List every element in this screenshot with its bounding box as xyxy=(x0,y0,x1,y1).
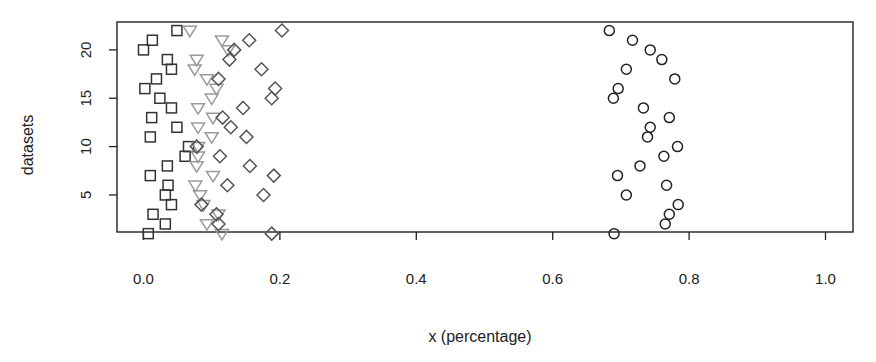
circle-marker xyxy=(608,93,618,103)
y-axis: 5101520 xyxy=(77,42,117,200)
y-tick-label: 20 xyxy=(77,42,94,59)
square-marker xyxy=(148,209,158,219)
diamond-marker xyxy=(255,63,268,76)
circle-marker xyxy=(670,74,680,84)
square-marker xyxy=(140,84,150,94)
circle-marker xyxy=(642,132,652,142)
circle-marker xyxy=(621,64,631,74)
square-marker xyxy=(145,132,155,142)
x-tick-label: 1.0 xyxy=(815,270,836,287)
circle-marker xyxy=(664,113,674,123)
circle-marker xyxy=(645,122,655,132)
circle-marker xyxy=(673,200,683,210)
square-marker xyxy=(145,171,155,181)
y-tick-label: 10 xyxy=(77,138,94,155)
circle-marker xyxy=(621,190,631,200)
square-marker xyxy=(166,200,176,210)
triangle-marker xyxy=(188,65,201,75)
circle-marker xyxy=(604,26,614,36)
x-tick-label: 0.4 xyxy=(406,270,427,287)
diamond-marker xyxy=(257,188,270,201)
circle-marker xyxy=(645,45,655,55)
square-marker xyxy=(166,64,176,74)
square-marker xyxy=(180,151,190,161)
square-marker xyxy=(139,45,149,55)
diamond-marker xyxy=(240,130,253,143)
square-marker xyxy=(172,26,182,36)
circle-marker xyxy=(662,180,672,190)
triangle-marker xyxy=(200,220,213,230)
triangle-marker xyxy=(192,104,205,114)
y-axis-title: datasets xyxy=(19,115,36,175)
x-tick-label: 0.0 xyxy=(133,270,154,287)
square-marker xyxy=(172,122,182,132)
triangle-marker xyxy=(183,26,196,36)
triangle-marker xyxy=(200,75,213,85)
square-marker xyxy=(166,103,176,113)
circle-marker xyxy=(627,35,637,45)
diamond-marker xyxy=(243,159,256,172)
diamond-marker xyxy=(275,24,288,37)
triangle-marker xyxy=(207,171,220,181)
diamond-marker xyxy=(243,34,256,47)
y-tick-label: 5 xyxy=(77,191,94,199)
square-marker xyxy=(160,190,170,200)
triangle-marker xyxy=(205,133,218,143)
circle-marker xyxy=(635,161,645,171)
triangle-marker xyxy=(190,55,203,65)
circle-marker xyxy=(664,209,674,219)
circle-marker xyxy=(660,219,670,229)
data-points xyxy=(139,24,684,240)
series-square xyxy=(139,26,194,239)
square-marker xyxy=(155,93,165,103)
circle-marker xyxy=(659,151,669,161)
triangle-marker xyxy=(215,229,228,239)
triangle-marker xyxy=(190,162,203,172)
diamond-marker xyxy=(267,169,280,182)
plot-frame xyxy=(117,22,853,232)
circle-marker xyxy=(638,103,648,113)
square-marker xyxy=(143,229,153,239)
square-marker xyxy=(160,219,170,229)
y-tick-label: 15 xyxy=(77,90,94,107)
x-tick-label: 0.6 xyxy=(542,270,563,287)
diamond-marker xyxy=(213,150,226,163)
square-marker xyxy=(151,74,161,84)
triangle-marker xyxy=(189,181,202,191)
triangle-marker xyxy=(215,36,228,46)
square-marker xyxy=(147,113,157,123)
x-axis-title: x (percentage) xyxy=(428,328,531,345)
triangle-marker xyxy=(192,123,205,133)
x-tick-label: 0.8 xyxy=(679,270,700,287)
diamond-marker xyxy=(224,121,237,134)
diamond-marker xyxy=(221,179,234,192)
circle-marker xyxy=(673,142,683,152)
square-marker xyxy=(147,35,157,45)
scatter-chart: 0.00.20.40.60.81.0 5101520 x (percentage… xyxy=(0,0,876,362)
triangle-marker xyxy=(210,84,223,94)
series-triangle xyxy=(183,26,234,239)
diamond-marker xyxy=(265,227,278,240)
circle-marker xyxy=(657,55,667,65)
square-marker xyxy=(162,161,172,171)
diamond-marker xyxy=(237,101,250,114)
series-circle xyxy=(604,26,683,239)
x-tick-label: 0.2 xyxy=(269,270,290,287)
circle-marker xyxy=(609,229,619,239)
x-axis: 0.00.20.40.60.81.0 xyxy=(133,232,836,287)
square-marker xyxy=(162,55,172,65)
circle-marker xyxy=(613,84,623,94)
circle-marker xyxy=(612,171,622,181)
square-marker xyxy=(163,180,173,190)
